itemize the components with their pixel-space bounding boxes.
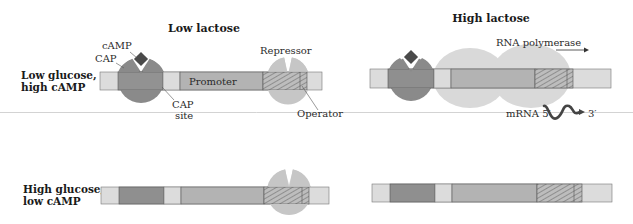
promoter-segment: [181, 187, 264, 204]
row-label-top-line1: Low glucose,: [21, 69, 97, 81]
row-label-bottom: High glucose, low cAMP: [23, 183, 104, 207]
transcription-direction-arrow: [556, 48, 589, 53]
camp-label: cAMP: [102, 40, 132, 51]
promoter-segment: [451, 69, 535, 88]
dna-strand: [370, 69, 611, 88]
spacer-segment: [163, 72, 180, 90]
panel-bottom-left: [101, 168, 329, 215]
promoter-segment: [452, 184, 537, 202]
row-label-bottom-line2: low cAMP: [23, 195, 81, 207]
row-label-bottom-line1: High glucose,: [23, 183, 104, 195]
row-label-top: Low glucose, high cAMP: [21, 69, 97, 93]
cap-site-segment: [119, 187, 164, 204]
repressor-label: Repressor: [260, 45, 312, 56]
cap-label: CAP: [95, 53, 117, 64]
cap-site-segment: [390, 184, 435, 202]
spacer-segment: [435, 184, 452, 202]
dna-strand: [101, 187, 329, 204]
panel-top-right: RNA polymerase mRNA 5′ 3′: [370, 37, 611, 119]
operator-label: Operator: [297, 108, 343, 119]
cap-site-label-line2: site: [175, 110, 193, 121]
lac-operon-diagram: Low lactose High lactose Low glucose, hi…: [0, 0, 633, 224]
dna-strand: [372, 184, 612, 202]
promoter-label: Promoter: [189, 76, 237, 87]
panel-top-left: cAMP CAP Promoter CAP site Repressor Ope…: [95, 40, 343, 121]
spacer-segment: [434, 69, 451, 88]
operator-segment: [263, 72, 307, 90]
spacer-segment: [164, 187, 181, 204]
panel-bottom-right: [372, 184, 612, 202]
column-title-low-lactose: Low lactose: [168, 22, 240, 35]
three-prime-label: 3′: [588, 108, 597, 119]
cap-site-segment: [118, 72, 163, 90]
operator-segment: [537, 184, 582, 202]
row-label-top-line2: high cAMP: [21, 81, 85, 93]
mrna-label: mRNA 5′: [506, 108, 552, 119]
column-title-high-lactose: High lactose: [452, 12, 530, 25]
cap-site-label-line1: CAP: [172, 99, 194, 110]
rna-polymerase-label: RNA polymerase: [496, 37, 581, 48]
